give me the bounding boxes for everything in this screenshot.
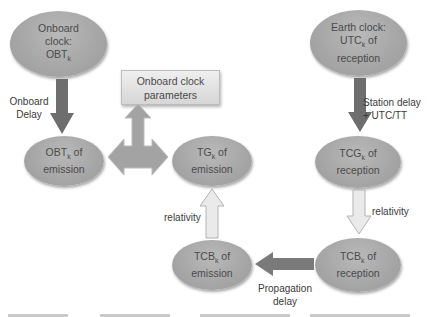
relativity-right-label: relativity — [372, 205, 409, 218]
tcb-emission-node: TCBk of emission — [172, 240, 252, 290]
onboard-delay-arrow — [50, 79, 74, 135]
box-text: Onboard clock — [137, 74, 205, 88]
node-text: Onboard — [38, 22, 79, 35]
tcb-reception-node: TCBk of reception — [315, 238, 401, 292]
node-text: reception — [336, 164, 379, 177]
node-text: reception — [337, 52, 380, 65]
node-text: TCBk of — [194, 250, 230, 267]
three-way-arrow — [108, 104, 168, 179]
station-delay-label: Station delay + UTC/TT — [363, 96, 428, 122]
relativity-left-label: relativity — [164, 211, 201, 224]
node-text: TCBk of — [340, 250, 376, 267]
node-text: UTCk of — [340, 34, 377, 51]
node-text: OBTk — [46, 48, 71, 65]
node-text: emission — [191, 267, 232, 280]
node-text: emission — [191, 163, 232, 176]
onboard-delay-label: Onboard Delay — [6, 95, 52, 121]
node-text: clock: — [45, 35, 72, 48]
relativity-down-arrow — [346, 190, 372, 235]
node-text: OBTk of — [46, 146, 83, 163]
node-text: reception — [336, 267, 379, 280]
node-text: TCGk of — [339, 147, 376, 164]
tg-emission-node: TGk of emission — [172, 136, 252, 186]
node-text: TGk of — [197, 146, 227, 163]
propagation-delay-arrow — [255, 252, 315, 276]
node-text: Earth clock: — [331, 21, 386, 34]
relativity-up-arrow — [199, 189, 225, 239]
obt-emission-node: OBTk of emission — [24, 136, 104, 186]
earth-clock-node: Earth clock: UTCk of reception — [310, 10, 407, 76]
tcg-reception-node: TCGk of reception — [315, 136, 401, 188]
propagation-delay-label: Propagation delay — [255, 282, 315, 308]
cropped-caption-remnant — [0, 313, 428, 317]
onboard-clock-node: Onboard clock: OBTk — [10, 11, 107, 77]
onboard-clock-parameters-box: Onboard clock parameters — [121, 70, 220, 105]
box-text: parameters — [144, 88, 197, 102]
node-text: emission — [43, 163, 84, 176]
